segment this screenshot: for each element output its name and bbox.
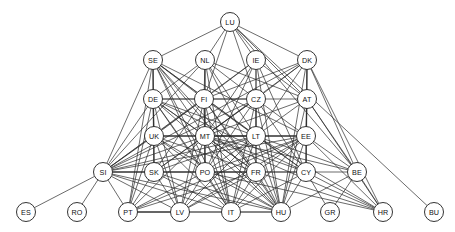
node-at[interactable]: AT bbox=[298, 90, 317, 109]
edges-layer bbox=[34, 26, 427, 212]
node-label-po: PO bbox=[200, 168, 211, 177]
edge-si-es bbox=[34, 176, 94, 207]
edge-dk-hr bbox=[311, 69, 379, 204]
edge-cy-gr bbox=[311, 180, 325, 204]
node-de[interactable]: DE bbox=[144, 90, 163, 109]
node-label-mt: MT bbox=[200, 132, 211, 141]
node-hr[interactable]: HR bbox=[374, 203, 393, 222]
edge-lu-se bbox=[162, 26, 222, 56]
edge-se-mt bbox=[158, 68, 199, 128]
node-label-ie: IE bbox=[253, 56, 260, 65]
node-label-nl: NL bbox=[200, 56, 209, 65]
node-label-lt: LT bbox=[252, 132, 261, 141]
edge-po-pt bbox=[136, 176, 196, 207]
node-si[interactable]: SI bbox=[94, 163, 113, 182]
edge-cy-hr bbox=[314, 176, 374, 207]
node-it[interactable]: IT bbox=[222, 203, 241, 222]
node-label-cz: CZ bbox=[251, 95, 261, 104]
node-label-cy: CY bbox=[301, 168, 311, 177]
node-label-it: IT bbox=[228, 208, 235, 217]
node-label-hr: HR bbox=[378, 208, 389, 217]
node-label-de: DE bbox=[148, 95, 158, 104]
node-gr[interactable]: GR bbox=[321, 203, 340, 222]
node-label-sk: SK bbox=[149, 168, 159, 177]
node-label-bu: BU bbox=[429, 208, 439, 217]
node-fr[interactable]: FR bbox=[247, 163, 266, 182]
node-bu[interactable]: BU bbox=[425, 203, 444, 222]
edge-si-lv bbox=[111, 176, 171, 207]
edge-si-pt bbox=[108, 180, 123, 204]
node-label-se: SE bbox=[148, 56, 158, 65]
node-label-si: SI bbox=[100, 168, 107, 177]
node-label-hu: HU bbox=[276, 208, 287, 217]
node-cy[interactable]: CY bbox=[297, 163, 316, 182]
node-lt[interactable]: LT bbox=[247, 127, 266, 146]
edge-dk-be bbox=[311, 69, 353, 164]
edge-lu-ie bbox=[235, 30, 250, 52]
node-lu[interactable]: LU bbox=[221, 13, 240, 32]
network-svg: LUSENLIEDKDEFICZATUKMTLTEESISKPOFRCYBEES… bbox=[0, 0, 455, 232]
edge-dk-lt bbox=[261, 68, 301, 128]
node-pt[interactable]: PT bbox=[119, 203, 138, 222]
node-label-dk: DK bbox=[302, 56, 312, 65]
node-label-ee: EE bbox=[301, 132, 311, 141]
edge-lu-nl bbox=[210, 30, 225, 52]
node-mt[interactable]: MT bbox=[196, 127, 215, 146]
node-sk[interactable]: SK bbox=[145, 163, 164, 182]
node-lv[interactable]: LV bbox=[171, 203, 190, 222]
node-label-ro: RO bbox=[72, 208, 83, 217]
node-es[interactable]: ES bbox=[17, 203, 36, 222]
node-fi[interactable]: FI bbox=[195, 90, 214, 109]
node-label-uk: UK bbox=[149, 132, 159, 141]
node-uk[interactable]: UK bbox=[145, 127, 164, 146]
node-label-be: BE bbox=[352, 168, 362, 177]
node-label-pt: PT bbox=[123, 208, 133, 217]
network-diagram: LUSENLIEDKDEFICZATUKMTLTEESISKPOFRCYBEES… bbox=[0, 0, 455, 232]
node-dk[interactable]: DK bbox=[298, 51, 317, 70]
node-label-gr: GR bbox=[325, 208, 336, 217]
edge-be-hr bbox=[362, 180, 378, 204]
node-cz[interactable]: CZ bbox=[247, 90, 266, 109]
node-label-lu: LU bbox=[225, 18, 234, 27]
node-label-at: AT bbox=[303, 95, 312, 104]
node-po[interactable]: PO bbox=[196, 163, 215, 182]
node-ie[interactable]: IE bbox=[247, 51, 266, 70]
edge-se-si bbox=[107, 69, 149, 164]
node-label-lv: LV bbox=[176, 208, 185, 217]
node-nl[interactable]: NL bbox=[196, 51, 215, 70]
node-label-es: ES bbox=[21, 208, 31, 217]
node-ee[interactable]: EE bbox=[297, 127, 316, 146]
node-hu[interactable]: HU bbox=[272, 203, 291, 222]
node-se[interactable]: SE bbox=[144, 51, 163, 70]
node-label-fr: FR bbox=[251, 168, 261, 177]
edge-si-ro bbox=[82, 180, 98, 204]
node-label-fi: FI bbox=[201, 95, 208, 104]
edge-lu-dk bbox=[239, 26, 299, 56]
edge-fr-lv bbox=[188, 176, 247, 207]
node-ro[interactable]: RO bbox=[68, 203, 87, 222]
edge-be-hu bbox=[289, 176, 348, 207]
node-be[interactable]: BE bbox=[348, 163, 367, 182]
